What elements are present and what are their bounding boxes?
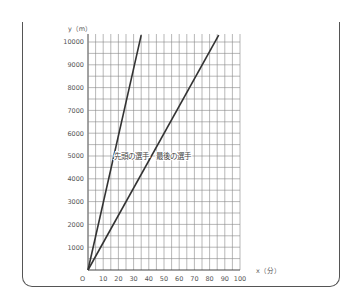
y-tick-label: 2000 <box>67 221 84 229</box>
x-tick-label: 60 <box>175 275 183 283</box>
x-tick-label: 100 <box>234 275 246 283</box>
x-tick-label: 90 <box>221 275 229 283</box>
x-tick-label: 50 <box>160 275 168 283</box>
lead-runner-label: 先頭の選手 <box>114 151 150 161</box>
x-tick-label: 30 <box>129 275 137 283</box>
y-tick-label: 3000 <box>67 198 84 206</box>
x-axis-label: x（分） <box>256 266 281 275</box>
y-tick-label: 4000 <box>67 175 84 183</box>
series-lines <box>88 35 219 270</box>
y-tick-label: 6000 <box>67 130 84 138</box>
last-runner-line <box>88 35 219 270</box>
y-tick-label: 10000 <box>63 38 84 46</box>
x-tick-label: 20 <box>114 275 122 283</box>
last-runner-label: 最後の選手 <box>156 151 192 161</box>
y-tick-label: 8000 <box>67 84 84 92</box>
axis-ticks: 1020304050607080901001000200030004000500… <box>63 38 246 283</box>
x-tick-label: 10 <box>99 275 107 283</box>
x-tick-label: 70 <box>190 275 198 283</box>
distance-time-chart: 1020304050607080901001000200030004000500… <box>0 0 359 304</box>
y-axis-label: y（m） <box>68 25 92 33</box>
x-tick-label: 80 <box>205 275 213 283</box>
y-tick-label: 1000 <box>67 244 84 252</box>
y-tick-label: 9000 <box>67 61 84 69</box>
y-tick-label: 7000 <box>67 107 84 115</box>
y-tick-label: 5000 <box>67 152 84 160</box>
x-tick-label: 40 <box>145 275 153 283</box>
origin-label: O <box>80 275 85 283</box>
